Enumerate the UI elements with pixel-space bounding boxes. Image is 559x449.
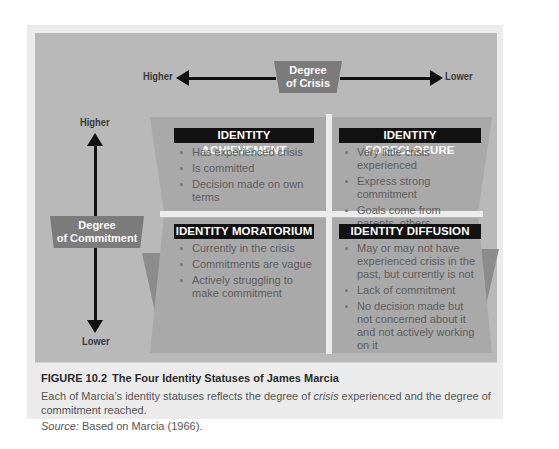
figure-source: Source:Based on Marcia (1966).: [41, 420, 202, 432]
arrow-down-icon: [87, 320, 103, 333]
source-label: Source:: [41, 420, 79, 432]
list-item: May or may not have experienced crisis i…: [339, 242, 481, 281]
degree-of-crisis-tag: Degree of Crisis: [274, 61, 342, 93]
quadrant-title: IDENTITY ACHIEVEMENT: [174, 128, 314, 143]
list-item: No decision made but not concerned about…: [339, 300, 481, 352]
caption-emphasis: crisis: [314, 390, 339, 402]
list-item: Is committed: [174, 162, 314, 175]
list-item: Very little crisis experienced: [339, 146, 481, 172]
crisis-axis-higher-label: Higher: [143, 70, 173, 82]
list-item: Currently in the crisis: [174, 242, 314, 255]
quadrant-identity-achievement: IDENTITY ACHIEVEMENT Has experienced cri…: [174, 128, 314, 207]
vertical-divider: [326, 114, 332, 354]
crisis-axis-lower-label: Lower: [445, 70, 473, 82]
arrow-right-icon: [430, 70, 443, 86]
quadrant-identity-foreclosure: IDENTITY FORECLOSURE Very little crisis …: [339, 128, 481, 233]
degree-of-commitment-tag: Degree of Commitment: [50, 216, 144, 248]
quadrant-list: Very little crisis experienced Express s…: [339, 146, 481, 230]
list-item: Actively struggling to make commitment: [174, 274, 314, 300]
tag-line: of Commitment: [57, 232, 138, 245]
quadrant-identity-moratorium: IDENTITY MORATORIUM Currently in the cri…: [174, 224, 314, 303]
quadrant-identity-diffusion: IDENTITY DIFFUSION May or may not have e…: [339, 224, 481, 355]
commitment-axis-lower-label: Lower: [82, 335, 110, 347]
caption-text: Each of Marcia’s identity statuses refle…: [41, 390, 314, 402]
crisis-axis-line-right: [340, 77, 435, 80]
figure-caption-title: FIGURE 10.2The Four Identity Statuses of…: [41, 372, 339, 384]
list-item: Has experienced crisis: [174, 146, 314, 159]
commitment-axis-line-top: [94, 144, 97, 217]
list-item: Express strong commitment: [339, 175, 481, 201]
tag-line: Degree: [57, 219, 138, 232]
quadrant-list: Has experienced crisis Is committed Deci…: [174, 146, 314, 204]
quadrant-title: IDENTITY MORATORIUM: [174, 224, 314, 239]
commitment-axis-higher-label: Higher: [80, 116, 110, 128]
list-item: Lack of commitment: [339, 284, 481, 297]
source-text: Based on Marcia (1966).: [82, 420, 202, 432]
list-item: Commitments are vague: [174, 258, 314, 271]
tag-line: of Crisis: [286, 77, 330, 90]
figure-number: FIGURE 10.2: [41, 372, 107, 384]
quadrant-list: Currently in the crisis Commitments are …: [174, 242, 314, 300]
caption-divider: [35, 362, 497, 363]
crisis-axis-line-left: [186, 77, 276, 80]
quadrant-title: IDENTITY FORECLOSURE: [339, 128, 481, 143]
list-item: Decision made on own terms: [174, 178, 314, 204]
quadrant-list: May or may not have experienced crisis i…: [339, 242, 481, 352]
tag-line: Degree: [286, 64, 330, 77]
figure-caption-body: Each of Marcia’s identity statuses refle…: [41, 389, 501, 417]
commitment-axis-line-bottom: [94, 248, 97, 324]
quadrant-title: IDENTITY DIFFUSION: [339, 224, 481, 239]
figure-title: The Four Identity Statuses of James Marc…: [112, 372, 339, 384]
